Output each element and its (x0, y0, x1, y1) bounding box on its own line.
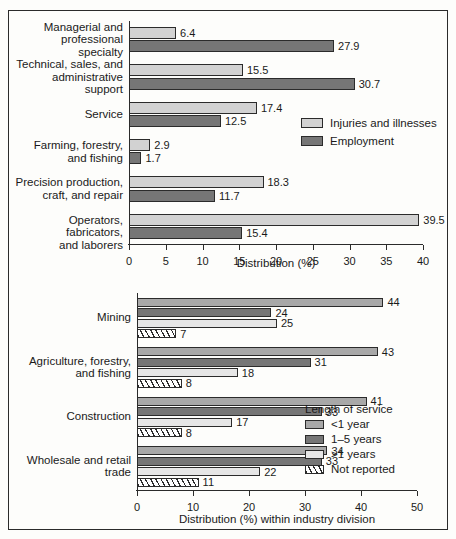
legend-item: Employment (301, 135, 437, 147)
x-tick (129, 245, 130, 250)
x-tick (350, 245, 351, 250)
x-tick-label: 10 (196, 255, 208, 267)
y-axis-line-top (129, 21, 130, 245)
category-label: Operators, fabricators, and laborers (15, 214, 123, 252)
bar (129, 40, 334, 52)
industry-legend: Length of service<1 year1–5 years>1 year… (305, 403, 395, 478)
bar-value-label: 18 (242, 368, 254, 379)
legend-label: Not reported (331, 463, 395, 475)
x-tick (305, 491, 306, 496)
bar (129, 115, 221, 127)
x-tick (203, 245, 204, 250)
category-label: Precision production, craft, and repair (15, 176, 123, 201)
bar (137, 418, 232, 427)
bar-value-label: 7 (180, 329, 186, 340)
category-label: Managerial and professional specialty (15, 21, 123, 59)
bar (137, 319, 277, 328)
bar-value-label: 31 (315, 357, 327, 368)
bar (129, 190, 215, 202)
bar-value-label: 22 (264, 467, 276, 478)
x-tick-label: 0 (134, 501, 140, 513)
category-label: Wholesale and retail trade (15, 454, 131, 479)
legend-swatch (301, 118, 323, 128)
bar (129, 139, 150, 151)
legend-swatch (305, 450, 324, 459)
industry-chart-panel: 01020304050 MiningAgriculture, forestry,… (9, 273, 449, 529)
legend-swatch (301, 136, 323, 146)
figure-frame: 0510152025303540 Managerial and professi… (8, 10, 448, 530)
legend-item: Injuries and illnesses (301, 117, 437, 129)
legend-item: Not reported (305, 463, 395, 475)
bar (137, 428, 182, 437)
bar (137, 358, 311, 367)
bar-value-label: 43 (382, 347, 394, 358)
bar (129, 27, 176, 39)
bar-value-label: 27.9 (338, 41, 359, 52)
x-tick-label: 0 (126, 255, 132, 267)
legend-label: 1–5 years (331, 433, 382, 445)
bar-value-label: 6.4 (180, 28, 195, 39)
bar (137, 368, 238, 377)
legend-swatch (305, 465, 324, 474)
legend-label: Employment (330, 135, 394, 147)
bar (137, 467, 260, 476)
legend-item: 1–5 years (305, 433, 395, 445)
bar-value-label: 15.4 (246, 228, 267, 239)
legend-label: <1 year (331, 418, 370, 430)
bar-value-label: 2.9 (154, 140, 169, 151)
x-tick-label: 30 (343, 255, 355, 267)
x-tick (361, 491, 362, 496)
x-tick (193, 491, 194, 496)
bar-value-label: 1.7 (145, 153, 160, 164)
figure-canvas: 0510152025303540 Managerial and professi… (0, 0, 456, 539)
bar-value-label: 25 (281, 318, 293, 329)
bar (129, 227, 242, 239)
bar (129, 78, 355, 90)
x-axis-line-bottom (136, 490, 417, 491)
category-label: Agriculture, forestry, and fishing (15, 355, 131, 380)
x-tick-label: 20 (243, 501, 255, 513)
bar (129, 214, 419, 226)
x-tick-label: 50 (411, 501, 423, 513)
bar (137, 347, 378, 356)
category-label: Construction (15, 410, 131, 423)
legend-swatch (305, 420, 324, 429)
bar-value-label: 30.7 (359, 79, 380, 90)
x-tick (423, 245, 424, 250)
x-tick (249, 491, 250, 496)
bar (137, 298, 383, 307)
bar-value-label: 8 (186, 378, 192, 389)
bar (137, 379, 182, 388)
x-tick (386, 245, 387, 250)
category-label: Service (15, 108, 123, 121)
occupation-x-axis-label: Distribution (%) (237, 257, 316, 269)
legend-label: Injuries and illnesses (330, 117, 437, 129)
bar (137, 407, 322, 416)
bar-value-label: 44 (387, 297, 399, 308)
bar (129, 152, 141, 164)
x-tick (137, 491, 138, 496)
bar-value-label: 11 (203, 477, 214, 488)
category-label: Technical, sales, and administrative sup… (15, 58, 123, 96)
bar (137, 308, 271, 317)
x-tick-label: 30 (299, 501, 311, 513)
legend-item: >1 years (305, 448, 395, 460)
bar-value-label: 15.5 (247, 65, 268, 76)
x-tick (313, 245, 314, 250)
bar-value-label: 17.4 (261, 103, 282, 114)
legend-item: <1 year (305, 418, 395, 430)
bar-value-label: 39.5 (423, 215, 444, 226)
bar-value-label: 18.3 (268, 177, 289, 188)
bar-value-label: 17 (236, 417, 248, 428)
x-tick-label: 10 (187, 501, 199, 513)
x-tick (417, 491, 418, 496)
occupation-chart-panel: 0510152025303540 Managerial and professi… (9, 13, 449, 269)
bar (137, 457, 322, 466)
legend-title: Length of service (305, 403, 395, 415)
category-label: Mining (15, 311, 131, 324)
bar-value-label: 12.5 (225, 116, 246, 127)
bar (129, 176, 264, 188)
x-tick-label: 5 (163, 255, 169, 267)
bar (137, 329, 176, 338)
x-tick-label: 40 (417, 255, 429, 267)
